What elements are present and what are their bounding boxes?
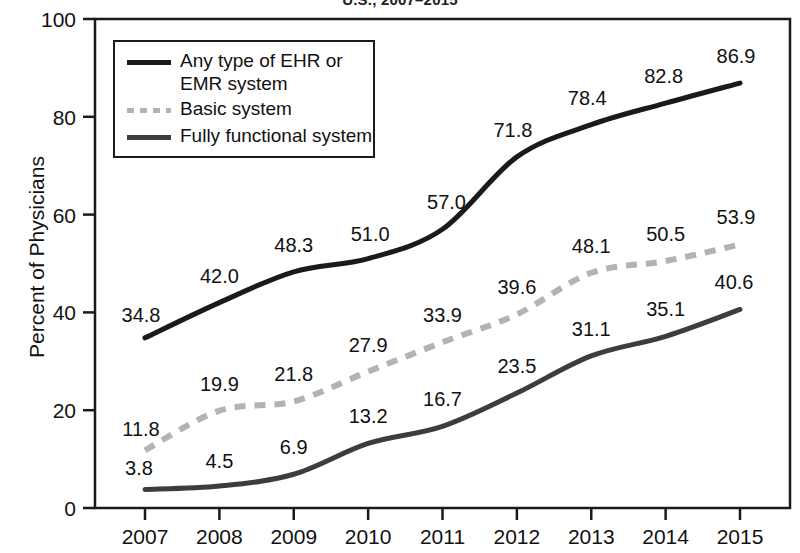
data-point-label: 40.6 — [715, 271, 754, 293]
y-tick-label: 100 — [41, 8, 76, 31]
x-tick-label: 2009 — [270, 525, 317, 548]
legend-swatch-basic-icon — [127, 108, 171, 113]
x-tick-label: 2013 — [568, 525, 615, 548]
data-point-label: 23.5 — [497, 355, 536, 377]
data-point-label: 11.8 — [122, 418, 159, 440]
x-tick-label: 2010 — [345, 525, 392, 548]
x-axis-ticks: 200720082009201020112012201320142015 — [122, 508, 764, 548]
data-point-label: 50.5 — [646, 223, 685, 245]
x-tick-label: 2008 — [196, 525, 243, 548]
data-point-label: 48.3 — [274, 234, 313, 256]
legend-label-any-ehr-line2: EMR system — [180, 73, 288, 94]
y-tick-label: 60 — [53, 204, 76, 227]
y-tick-label: 20 — [53, 399, 76, 422]
chart-legend: Any type of EHR or EMR system Basic syst… — [113, 40, 375, 158]
data-point-label: 4.5 — [205, 450, 233, 472]
data-point-label: 42.0 — [200, 265, 239, 287]
data-point-label: 27.9 — [349, 334, 388, 356]
x-tick-label: 2012 — [494, 525, 541, 548]
data-point-label: 19.9 — [200, 373, 239, 395]
data-point-label: 35.1 — [646, 298, 685, 320]
data-point-label: 53.9 — [717, 206, 756, 228]
x-tick-label: 2014 — [642, 525, 689, 548]
data-point-label: 86.9 — [717, 45, 756, 67]
legend-item-basic: Basic system — [115, 97, 373, 120]
data-point-label: 51.0 — [351, 223, 390, 245]
data-point-label: 39.6 — [497, 276, 536, 298]
legend-label-fully-functional: Fully functional system — [180, 124, 372, 147]
data-point-label: 21.8 — [274, 363, 313, 385]
data-point-label: 34.8 — [122, 304, 161, 326]
legend-item-any-ehr: Any type of EHR or EMR system — [115, 49, 373, 95]
legend-label-any-ehr: Any type of EHR or EMR system — [180, 49, 343, 95]
data-point-label: 16.7 — [423, 388, 462, 410]
x-tick-label: 2007 — [122, 525, 169, 548]
chart-figure: U.S., 2007–2015 020406080100 20072008200… — [0, 0, 800, 553]
data-point-label: 6.9 — [280, 436, 308, 458]
y-tick-label: 80 — [53, 106, 76, 129]
y-axis-title: Percent of Physicians — [25, 47, 49, 467]
x-tick-label: 2015 — [717, 525, 764, 548]
y-axis-ticks: 020406080100 — [41, 8, 95, 520]
data-point-label: 48.1 — [572, 235, 611, 257]
data-point-label: 71.8 — [493, 119, 532, 141]
data-point-label: 31.1 — [572, 318, 611, 340]
data-point-label: 13.2 — [349, 405, 388, 427]
x-tick-label: 2011 — [420, 525, 465, 548]
legend-swatch-any-ehr-icon — [127, 60, 171, 65]
data-point-label: 78.4 — [568, 87, 607, 109]
legend-label-any-ehr-line1: Any type of EHR or — [180, 50, 343, 71]
data-point-label: 3.8 — [125, 457, 153, 479]
legend-item-fully-functional: Fully functional system — [115, 124, 373, 147]
data-point-label: 33.9 — [423, 304, 462, 326]
legend-label-basic: Basic system — [180, 97, 292, 120]
data-point-label: 82.8 — [644, 65, 683, 87]
legend-swatch-fully-functional-icon — [127, 135, 171, 140]
data-point-label: 57.0 — [427, 191, 466, 213]
y-tick-label: 0 — [64, 497, 76, 520]
y-tick-label: 40 — [53, 301, 76, 324]
